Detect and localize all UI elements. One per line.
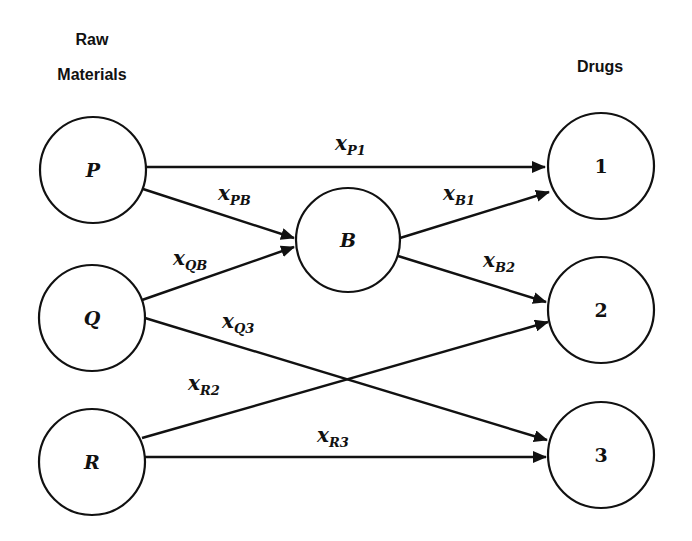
node-drug-2: 2 [548, 257, 654, 363]
node-p: P [40, 117, 146, 223]
edge-q-b [142, 247, 294, 300]
node-q-label: Q [84, 307, 101, 329]
node-drug-2-label: 2 [594, 299, 607, 321]
node-p-label: P [85, 159, 101, 181]
node-drug-1-label: 1 [594, 155, 607, 177]
edge-b-2 [398, 256, 546, 302]
header-drugs: Drugs [577, 58, 623, 75]
node-drug-3-label: 3 [594, 444, 607, 466]
header-raw: Raw [76, 31, 109, 48]
node-b: B [296, 188, 400, 292]
node-drug-1: 1 [548, 113, 654, 219]
network-diagram: Raw Materials Drugs P Q R B 1 2 3 xP1 xP… [0, 0, 692, 541]
header-materials: Materials [57, 66, 126, 83]
node-q: Q [39, 265, 145, 371]
node-drug-3: 3 [548, 402, 654, 508]
edge-label-r2: xR2 [187, 371, 220, 398]
edge-label-qb: xQB [172, 246, 207, 273]
node-r: R [39, 409, 145, 515]
node-b-label: B [339, 229, 356, 251]
edge-label-b2: xB2 [482, 248, 515, 275]
edge-label-p1: xP1 [334, 131, 366, 158]
node-r-label: R [83, 451, 100, 473]
edge-label-b1: xB1 [442, 181, 475, 208]
edge-label-r3: xR3 [316, 423, 349, 450]
edge-label-q3: xQ3 [221, 309, 254, 336]
edge-label-pb: xPB [217, 181, 251, 208]
